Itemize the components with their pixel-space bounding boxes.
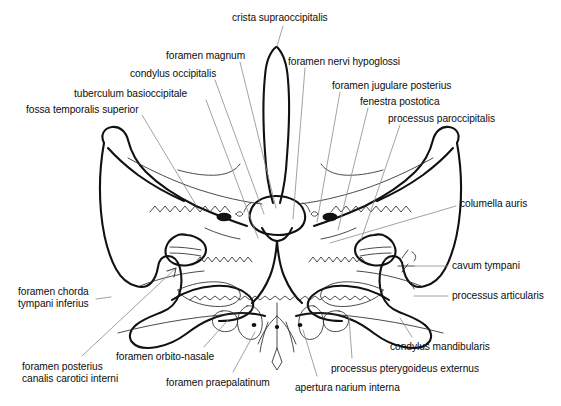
label-foramen-nervi-hypoglossi: foramen nervi hypoglossi: [288, 56, 400, 68]
label-fenestra-postotica: fenestra postotica: [360, 96, 440, 108]
left-occipital-suture-zigzag: [150, 206, 230, 212]
label-tuberculum-basioccipitale: tuberculum basioccipitale: [74, 88, 187, 100]
leader-crista-supraoccipitalis: [277, 26, 283, 46]
left-columella-shaft-lower: [170, 253, 201, 256]
left-small-foramen: [252, 323, 257, 327]
crista-supraoccipitalis-outline: [264, 47, 277, 203]
leader-foramen-praepalatinum: [233, 332, 255, 372]
leader-processus-paroccipitalis: [361, 125, 400, 240]
label-foramen-praepalatinum: foramen praepalatinum: [166, 377, 270, 389]
label-crista-supraoccipitalis: crista supraoccipitalis: [232, 12, 328, 24]
label-condylus-occipitalis: condylus occipitalis: [130, 68, 216, 80]
basicranium-midline-plate: [252, 241, 277, 303]
leader-apertura-narium-interna: [303, 330, 317, 376]
label-foramen-orbito-nasale: foramen orbito-nasale: [116, 351, 214, 363]
label-columella-auris: columella auris: [460, 198, 527, 210]
label-foramen-magnum: foramen magnum: [166, 50, 245, 62]
right-small-foramen: [298, 323, 303, 327]
label-processus-pterygoideus-externus: processus pterygoideus externus: [331, 363, 479, 375]
leader-foramen-orbito-nasale: [204, 320, 228, 347]
left-foramen-jugulare-posterius: [217, 213, 232, 221]
right-temporal-arch-outline: [314, 127, 459, 226]
label-foramen-jugulare-posterius: foramen jugulare posterius: [332, 80, 451, 92]
label-foramen-posterius-canalis-carotici-interni: foramen posterius canalis carotici inter…: [22, 361, 118, 384]
label-condylus-mandibularis: condylus mandibularis: [390, 341, 490, 353]
left-basisphenoid-suture-zigzag: [196, 257, 252, 262]
leader-foramen-jugulare-posterius: [317, 92, 340, 222]
left-quadrate-lobe: [130, 320, 209, 348]
anatomical-figure: crista supraoccipitalis foramen magnum f…: [0, 0, 561, 406]
leader-foramen-chorda-tympani-inferius: [96, 297, 111, 299]
label-processus-articularis: processus articularis: [452, 290, 544, 302]
leader-foramen-nervi-hypoglossi: [293, 68, 305, 219]
leader-processus-pterygoideus-externus: [349, 318, 352, 358]
right-hypoglossal-mark: [311, 212, 318, 217]
right-columella-shaft-upper: [360, 247, 391, 250]
leader-condylus-mandibularis: [400, 318, 412, 337]
left-basicranial-fold: [205, 228, 240, 239]
right-lateral-border: [380, 143, 461, 325]
cavum-tympani-hook: [412, 252, 416, 261]
label-foramen-chorda-tympani-inferius: foramen chorda tympani inferius: [18, 286, 89, 309]
leader-tuberculum-basioccipitale: [206, 100, 258, 238]
label-fossa-temporalis-superior: fossa temporalis superior: [26, 104, 139, 116]
premaxilla-midline-spike: [272, 303, 282, 370]
palatal-suture-zigzag: [190, 296, 370, 300]
leader-condylus-occipitalis: [215, 80, 264, 214]
right-fenestra-postotica: [323, 213, 338, 221]
label-cavum-tympani: cavum tympani: [452, 260, 520, 272]
label-processus-paroccipitalis: processus paroccipitalis: [388, 113, 495, 125]
leader-columella-auris: [330, 206, 456, 243]
left-lateral-border: [100, 143, 181, 325]
basicranium-midline-plate-right: [277, 241, 302, 303]
foramen-magnum-ring: [250, 196, 305, 235]
leader-foramen-magnum: [240, 62, 276, 208]
right-columella-shaft-lower: [360, 253, 391, 256]
left-temporal-arch-outline: [102, 127, 247, 226]
left-columella-shaft-upper: [170, 247, 201, 250]
label-apertura-narium-interna: apertura narium interna: [295, 382, 400, 394]
crista-supraoccipitalis-outline-right: [277, 47, 289, 203]
cavum-tympani-slash-1: [402, 250, 408, 258]
left-hypoglossal-mark: [236, 212, 243, 217]
midline-foramen-praepalatinum: [275, 325, 279, 329]
premaxilla-right-flare: [277, 316, 296, 344]
right-basisphenoid-suture-zigzag: [309, 257, 365, 262]
premaxilla-left-flare: [258, 316, 277, 344]
right-basicranial-fold: [321, 228, 356, 239]
